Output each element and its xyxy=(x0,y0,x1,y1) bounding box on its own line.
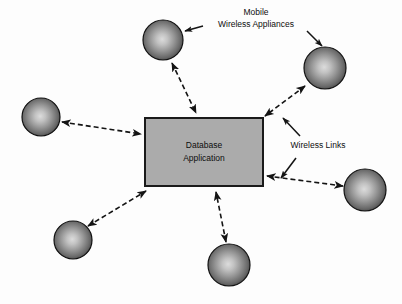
wireless-links-leader-up-arrow xyxy=(283,118,300,136)
appliance-sphere-top-right[interactable] xyxy=(304,47,346,89)
appliances-annotation-line2: Wireless Appliances xyxy=(218,19,294,29)
wireless-link-top-right xyxy=(265,86,305,116)
mobile-wireless-appliances-annotation: Mobile Wireless Appliances xyxy=(185,7,322,46)
wireless-links-annotation: Wireless Links xyxy=(281,118,345,178)
appliances-leader-left-arrow xyxy=(185,26,203,31)
appliance-sphere-top[interactable] xyxy=(143,20,183,60)
wireless-link-right xyxy=(267,176,343,186)
database-application-label-line2: Application xyxy=(183,153,225,163)
appliance-sphere-bottom-left[interactable] xyxy=(54,221,92,259)
wireless-link-top xyxy=(172,63,196,113)
database-application-label-line1: Database xyxy=(186,140,223,150)
wireless-links-leader-down-arrow xyxy=(281,158,296,178)
wireless-link-bottom-mid xyxy=(216,192,226,242)
diagram-canvas: Database Application Mobile Wireless App… xyxy=(0,0,402,304)
database-application-node[interactable]: Database Application xyxy=(145,118,263,186)
wireless-link-bottom-left xyxy=(88,191,146,226)
appliance-sphere-right[interactable] xyxy=(344,169,386,211)
wireless-links-annotation-label: Wireless Links xyxy=(291,140,346,150)
appliances-annotation-line1: Mobile xyxy=(243,7,268,17)
appliance-sphere-bottom-mid[interactable] xyxy=(208,244,250,286)
appliance-sphere-left[interactable] xyxy=(22,98,60,136)
network-diagram: Database Application Mobile Wireless App… xyxy=(0,0,402,304)
appliances-leader-right-arrow xyxy=(307,31,322,46)
wireless-link-left xyxy=(62,122,141,134)
database-application-box[interactable] xyxy=(145,118,263,186)
